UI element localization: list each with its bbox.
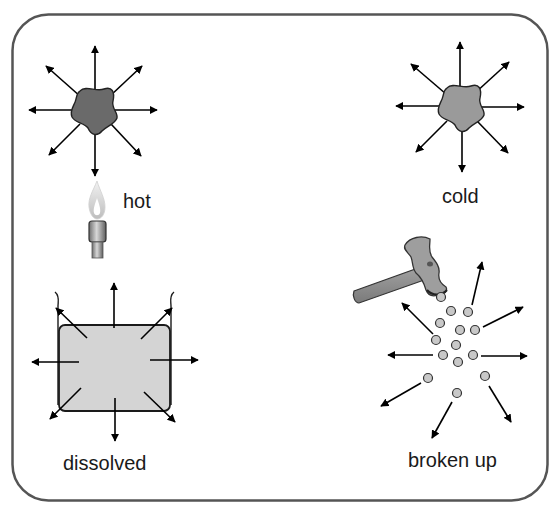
arrow-down-left — [49, 124, 80, 155]
particle — [432, 336, 441, 345]
particle — [481, 372, 490, 381]
hammer-head — [405, 237, 447, 296]
label-cold: cold — [442, 185, 479, 207]
burner-tube — [92, 242, 103, 258]
particle — [439, 351, 448, 360]
arrow-up-left — [46, 66, 81, 97]
arrow-up-left — [402, 303, 433, 334]
particle — [436, 319, 445, 328]
particle — [424, 374, 433, 383]
panel-dissolved: dissolved — [32, 283, 198, 474]
hot-blob — [71, 88, 117, 134]
label-hot: hot — [123, 190, 151, 212]
particle — [453, 389, 462, 398]
broken-arrows — [381, 262, 527, 438]
arrow-up-right — [483, 307, 523, 327]
arrow-down — [432, 402, 452, 438]
cold-blob — [438, 85, 484, 131]
burner-nozzle — [89, 221, 106, 242]
hammer-icon — [353, 237, 447, 303]
arrow-down-right — [489, 386, 511, 422]
arrow-up — [472, 262, 482, 305]
panel-hot: hot — [29, 46, 157, 258]
particle — [456, 326, 465, 335]
arrow-up-left — [411, 64, 446, 94]
particle — [454, 358, 463, 367]
particle — [452, 341, 461, 350]
particle — [469, 351, 478, 360]
arrow-down-left — [416, 121, 447, 152]
arrow-down-right — [477, 121, 508, 153]
panel-broken-up: broken up — [353, 237, 527, 471]
particle — [464, 308, 473, 317]
label-broken-up: broken up — [408, 449, 497, 471]
particle — [471, 326, 480, 335]
arrow-down-left — [381, 383, 421, 406]
particle — [447, 307, 456, 316]
particle — [437, 293, 446, 302]
bunsen-burner — [89, 181, 106, 258]
particles — [424, 293, 490, 398]
panel-cold: cold — [396, 42, 524, 207]
label-dissolved: dissolved — [63, 452, 146, 474]
diagram-canvas: hot cold dissolved — [0, 0, 559, 508]
hammer-hole — [427, 262, 433, 267]
arrow-down-right — [111, 124, 141, 156]
arrow-up-right — [110, 66, 142, 96]
